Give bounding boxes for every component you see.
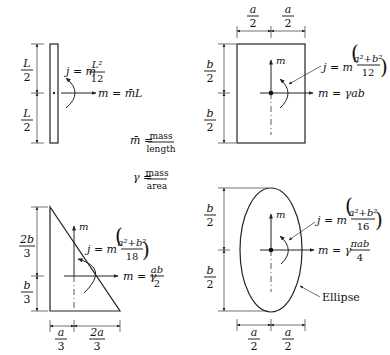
ell-dim-right-den: 2 <box>285 340 292 353</box>
ell-dim-lower-den: 2 <box>207 278 214 291</box>
rod-dim-bottom-den: 2 <box>24 121 31 134</box>
ellipse-figure: b 2 b 2 a 2 a 2 m j = m ( a²+b² 16 ) m =… <box>204 188 383 353</box>
rod-centroid <box>53 92 55 94</box>
ell-mass-num: πab <box>350 238 370 249</box>
rod-inertia-den: 12 <box>91 73 104 84</box>
ell-mass-prefix: m = γ <box>318 244 352 257</box>
ell-dim-right-num: a <box>285 326 292 339</box>
tri-mass-den: 2 <box>154 278 160 289</box>
tri-dim-upper-den: 3 <box>24 247 31 260</box>
tri-inertia-prefix: j = m <box>84 243 117 256</box>
rect-dim-top-right-den: 2 <box>285 17 292 30</box>
mbar-den: length <box>146 144 175 154</box>
diagram-canvas: L 2 L 2 j = m L² 12 m = m̄L m̄ = mass le… <box>0 0 390 355</box>
tri-inertia-den: 18 <box>126 251 139 262</box>
rod-figure: L 2 L 2 j = m L² 12 m = m̄L <box>21 44 142 143</box>
ell-paren-right: ) <box>375 208 383 232</box>
tri-mass-num: ab <box>151 264 163 275</box>
rect-axis-label: m <box>276 55 285 66</box>
tri-dim-right-num: 2a <box>89 326 104 339</box>
tri-axis-label: m <box>79 221 88 232</box>
ellipse-callout-label: Ellipse <box>322 291 360 304</box>
rect-dim-lower-den: 2 <box>207 121 214 134</box>
rod-inertia-num: L² <box>91 59 103 70</box>
tri-dim-right-den: 3 <box>94 340 101 353</box>
ell-dim-left-num: a <box>251 326 258 339</box>
mbar-num: mass <box>149 131 173 141</box>
rod-dim-top-den: 2 <box>24 71 31 84</box>
rect-dim-lower-num: b <box>206 107 213 120</box>
rect-inertia-num: a²+b² <box>354 53 383 64</box>
rod-dim-bottom-num: L <box>22 107 30 120</box>
ell-dim-upper-num: b <box>206 202 213 215</box>
rect-paren-right: ) <box>380 55 388 79</box>
rect-dim-upper-den: 2 <box>207 72 214 85</box>
rect-inertia-prefix: j = m <box>320 61 353 74</box>
rect-inertia-den: 12 <box>362 67 375 78</box>
ellipse-callout-leader <box>300 286 320 297</box>
rect-dim-top-left-num: a <box>250 3 257 16</box>
rectangle-figure: a 2 a 2 b 2 b 2 m j = m ( a²+b² 12 ) m =… <box>204 3 388 143</box>
gamma-num: mass <box>145 168 169 178</box>
rod-dim-top-num: L <box>22 57 30 70</box>
tri-dim-left-num: a <box>58 326 65 339</box>
ell-inertia-den: 16 <box>357 221 370 232</box>
ell-dim-lower-num: b <box>206 264 213 277</box>
rect-dim-top-right-num: a <box>285 3 292 16</box>
ell-inertia-prefix: j = m <box>314 214 347 227</box>
ell-centroid <box>269 248 274 253</box>
ell-dim-left-den: 2 <box>251 340 258 353</box>
ell-dim-upper-den: 2 <box>207 216 214 229</box>
tri-paren-right: ) <box>142 238 150 262</box>
tri-dim-left-den: 3 <box>58 340 65 353</box>
tri-dim-upper-num: 2b <box>19 233 34 246</box>
ell-mass-den: 4 <box>357 252 363 263</box>
rect-dim-top-left-den: 2 <box>250 17 257 30</box>
tri-dim-lower-den: 3 <box>24 293 31 306</box>
gamma-den: area <box>147 181 168 191</box>
definitions: m̄ = mass length γ = mass area <box>130 131 176 191</box>
tri-dim-lower-num: b <box>23 279 30 292</box>
triangle-figure: 2b 3 b 3 a 3 2a 3 m j = m ( a²+b² 18 ) m… <box>19 207 164 353</box>
rect-mass-label: m = γab <box>318 87 365 100</box>
ell-inertia-num: a²+b² <box>349 207 378 218</box>
rect-centroid <box>269 91 274 96</box>
rect-dim-upper-num: b <box>206 58 213 71</box>
rod-mass-label: m = m̄L <box>98 87 142 100</box>
ell-axis-label: m <box>276 209 285 220</box>
